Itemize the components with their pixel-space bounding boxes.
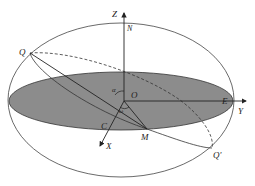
- diagram-canvas: Z N Q α O ω E Y C M X Q': [0, 0, 255, 186]
- x-axis-label: X: [105, 141, 112, 151]
- y-axis-label: Y: [238, 106, 244, 116]
- north-label: N: [126, 24, 133, 33]
- q-prime-label: Q': [213, 150, 222, 160]
- origin-label: O: [131, 90, 138, 100]
- q-label: Q: [19, 47, 26, 57]
- e-label: E: [221, 96, 228, 106]
- c-label: C: [101, 121, 108, 131]
- celestial-sphere-diagram: Z N Q α O ω E Y C M X Q': [0, 0, 255, 186]
- z-axis-label: Z: [112, 9, 118, 19]
- alpha-label: α: [112, 86, 116, 94]
- m-label: M: [140, 132, 149, 142]
- omega-label: ω: [119, 108, 123, 114]
